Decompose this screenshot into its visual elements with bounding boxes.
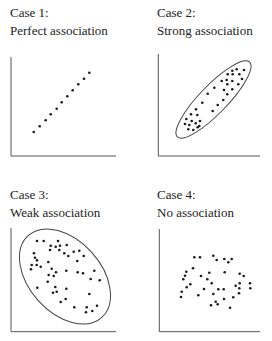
enclosing-ellipse — [1, 212, 128, 341]
data-point — [36, 286, 39, 289]
data-point — [39, 265, 42, 268]
data-point — [241, 78, 244, 81]
data-point — [196, 114, 199, 117]
data-point — [34, 256, 37, 259]
data-point — [190, 113, 193, 116]
data-point — [182, 278, 185, 281]
data-point — [223, 89, 226, 92]
data-point — [59, 301, 62, 304]
data-point — [78, 249, 81, 252]
data-point — [59, 244, 62, 247]
data-point — [223, 298, 226, 301]
data-point — [212, 254, 215, 257]
data-point — [63, 252, 66, 255]
enclosing-ellipse — [167, 52, 259, 146]
data-point — [49, 249, 52, 252]
data-point — [65, 269, 68, 272]
data-point — [226, 93, 229, 96]
data-point — [227, 261, 230, 264]
data-point — [184, 274, 187, 277]
data-point — [249, 287, 252, 290]
data-point — [200, 275, 203, 278]
data-point — [55, 107, 58, 110]
data-point — [208, 271, 211, 274]
data-point — [180, 290, 183, 293]
data-point — [223, 271, 226, 274]
data-point — [185, 118, 188, 121]
data-point — [64, 298, 67, 301]
data-point — [201, 101, 204, 104]
data-point — [73, 306, 76, 309]
data-point — [54, 286, 57, 289]
data-point — [220, 80, 223, 83]
data-point — [57, 240, 60, 243]
data-point — [52, 291, 55, 294]
data-point — [192, 129, 195, 132]
data-point — [238, 282, 241, 285]
data-point — [222, 99, 225, 102]
data-point — [225, 79, 228, 82]
data-point — [216, 104, 219, 107]
data-point — [42, 240, 45, 243]
data-point — [65, 244, 68, 247]
data-point — [206, 278, 209, 281]
data-point — [203, 288, 206, 291]
data-point — [98, 279, 101, 282]
data-point — [238, 287, 241, 290]
data-point — [232, 296, 235, 299]
data-point — [32, 131, 35, 134]
data-point — [49, 113, 52, 116]
data-point — [222, 288, 225, 291]
data-point — [238, 73, 241, 76]
data-point — [46, 280, 49, 283]
data-point — [226, 83, 229, 86]
scatter-panel-2 — [158, 52, 260, 156]
data-point — [82, 255, 85, 258]
data-point — [217, 288, 220, 291]
data-point — [47, 274, 50, 277]
data-point — [44, 119, 47, 122]
data-point — [238, 272, 241, 275]
data-point — [91, 310, 94, 313]
data-point — [212, 293, 215, 296]
data-point — [216, 303, 219, 306]
data-point — [65, 287, 68, 290]
data-point — [242, 275, 245, 278]
data-point — [88, 293, 91, 296]
data-point — [30, 268, 33, 271]
data-point — [210, 304, 213, 307]
data-point — [77, 83, 80, 86]
data-point — [58, 249, 61, 252]
data-point — [206, 92, 209, 95]
data-point — [194, 122, 197, 125]
data-point — [50, 267, 53, 270]
data-point — [85, 311, 88, 314]
data-point — [96, 304, 99, 307]
data-point — [85, 306, 88, 309]
data-point — [231, 69, 234, 72]
data-point — [249, 282, 252, 285]
data-point — [82, 272, 85, 275]
data-point — [38, 125, 41, 128]
data-point — [211, 110, 214, 113]
data-point — [185, 286, 188, 289]
data-point — [199, 120, 202, 123]
data-point — [187, 128, 190, 131]
data-point — [196, 126, 199, 129]
data-point — [36, 240, 39, 243]
data-point — [180, 296, 183, 299]
data-point — [72, 250, 75, 253]
data-point — [47, 261, 50, 264]
data-point — [93, 269, 96, 272]
data-point — [231, 73, 234, 76]
data-point — [54, 245, 57, 248]
data-point — [188, 124, 191, 127]
scatter-panel-4 — [159, 229, 260, 332]
scatter-panel-1 — [11, 57, 116, 156]
data-point — [190, 120, 193, 123]
data-point — [83, 77, 86, 80]
scatter-panel-3 — [1, 212, 128, 341]
scatter-plots — [0, 0, 272, 341]
data-point — [197, 294, 200, 297]
data-point — [214, 300, 217, 303]
